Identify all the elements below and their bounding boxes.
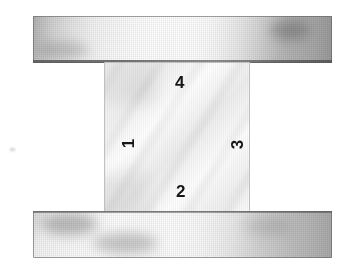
edge-label-left: 1 bbox=[120, 139, 137, 148]
upper-platen bbox=[33, 16, 332, 63]
lower-platen-outline bbox=[33, 211, 332, 258]
lower-platen bbox=[33, 211, 332, 258]
edge-label-right: 3 bbox=[229, 140, 246, 149]
upper-platen-outline bbox=[33, 16, 332, 63]
edge-label-bottom: 2 bbox=[176, 183, 185, 200]
figure-canvas: 4 1 3 2 bbox=[0, 0, 349, 271]
paper-speck bbox=[10, 148, 15, 151]
edge-label-top: 4 bbox=[175, 74, 184, 91]
